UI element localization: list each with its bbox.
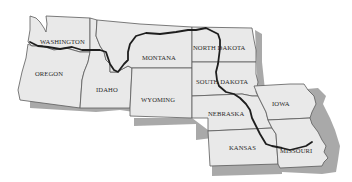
label-washington: WASHINGTON — [40, 38, 85, 45]
label-oregon: OREGON — [35, 70, 63, 77]
state-wyoming[interactable] — [130, 68, 192, 118]
label-montana: MONTANA — [142, 54, 176, 61]
label-missouri: MISSOURI — [280, 147, 312, 154]
label-kansas: KANSAS — [229, 144, 256, 151]
label-south-dakota: SOUTH DAKOTA — [196, 78, 248, 85]
label-iowa: IOWA — [272, 100, 290, 107]
label-wyoming: WYOMING — [141, 96, 175, 103]
label-idaho: IDAHO — [96, 86, 118, 93]
label-north-dakota: NORTH DAKOTA — [193, 44, 246, 51]
label-nebraska: NEBRASKA — [208, 110, 244, 117]
lewis-and-clark-states-map: WASHINGTON OREGON IDAHO MONTANA WYOMING … — [0, 0, 352, 182]
